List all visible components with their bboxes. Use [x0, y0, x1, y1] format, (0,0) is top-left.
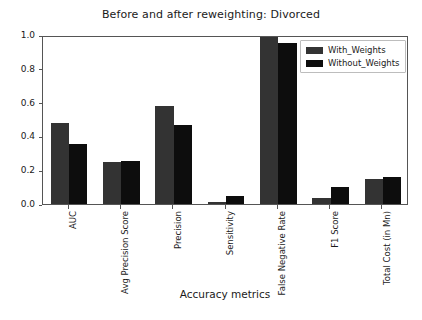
legend-item: Without_Weights — [306, 58, 400, 68]
x-axis: AUCAvg Precision ScorePrecisionSensitivi… — [42, 205, 408, 290]
bar — [312, 198, 330, 204]
bar — [174, 125, 192, 204]
y-tick-label: 0.6 — [21, 98, 35, 108]
x-tick-label: False Negative Rate — [277, 211, 287, 295]
bar — [383, 177, 401, 204]
bar — [365, 179, 383, 204]
x-tick-label: Precision — [173, 211, 183, 249]
legend-swatch-icon — [306, 60, 323, 67]
bar — [208, 202, 226, 204]
legend-label: With_Weights — [328, 45, 386, 55]
x-tick-label: AUC — [68, 211, 78, 229]
chart-legend: With_WeightsWithout_Weights — [300, 40, 406, 73]
bar — [278, 43, 296, 204]
bar — [260, 37, 278, 204]
x-axis-label: Accuracy metrics — [42, 288, 408, 300]
legend-swatch-icon — [306, 47, 323, 54]
chart-title: Before and after reweighting: Divorced — [0, 8, 422, 21]
legend-label: Without_Weights — [328, 58, 400, 68]
x-tick-mark — [381, 205, 382, 209]
bar — [69, 144, 87, 204]
x-tick-mark — [120, 205, 121, 209]
bar — [103, 162, 121, 204]
y-tick-label: 0.0 — [21, 199, 35, 209]
bar — [331, 187, 349, 204]
y-tick-label: 0.8 — [21, 64, 35, 74]
chart-figure: Before and after reweighting: Divorced 0… — [0, 0, 422, 320]
x-tick-label: F1 Score — [330, 211, 340, 248]
x-tick-label: Total Cost (in Mn) — [382, 211, 392, 285]
y-axis: 0.00.20.40.60.81.0 — [0, 36, 42, 205]
bar — [155, 106, 173, 204]
legend-item: With_Weights — [306, 45, 400, 55]
x-tick-label: Avg Precision Score — [120, 211, 130, 294]
x-tick-mark — [68, 205, 69, 209]
bar — [51, 123, 69, 204]
x-tick-mark — [329, 205, 330, 209]
x-tick-mark — [172, 205, 173, 209]
y-tick-label: 1.0 — [21, 30, 35, 40]
y-tick-label: 0.2 — [21, 165, 35, 175]
x-tick-mark — [277, 205, 278, 209]
bar — [226, 196, 244, 204]
x-tick-label: Sensitivity — [225, 211, 235, 255]
y-tick-label: 0.4 — [21, 131, 35, 141]
x-tick-mark — [225, 205, 226, 209]
bar — [121, 161, 139, 204]
